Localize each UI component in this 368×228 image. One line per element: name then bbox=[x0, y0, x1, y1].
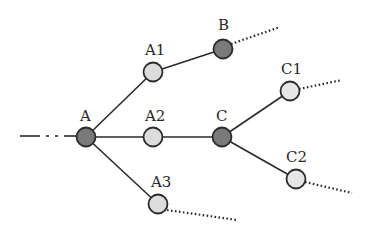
node-C bbox=[213, 128, 232, 147]
edge-A-A1 bbox=[86, 72, 153, 137]
label-C: C bbox=[216, 107, 227, 125]
node-A2 bbox=[144, 128, 163, 147]
edge-C1-continues bbox=[299, 80, 342, 89]
node-A3 bbox=[149, 195, 168, 214]
label-C1: C1 bbox=[281, 60, 302, 78]
node-B bbox=[214, 40, 233, 59]
label-B: B bbox=[218, 16, 229, 34]
edge-C2-continues bbox=[305, 182, 352, 193]
node-C2 bbox=[287, 170, 306, 189]
edge-C-C1 bbox=[222, 91, 290, 137]
label-A2: A2 bbox=[144, 107, 165, 125]
edge-A3-continues bbox=[167, 210, 237, 220]
node-A bbox=[77, 128, 96, 147]
edge-B-continues bbox=[231, 27, 280, 44]
edge-A-A3 bbox=[86, 137, 158, 204]
node-C1 bbox=[281, 82, 300, 101]
node-A1 bbox=[144, 63, 163, 82]
tree-diagram: A A1 A2 A3 B C C1 C2 bbox=[0, 0, 368, 228]
label-A3: A3 bbox=[150, 173, 171, 191]
label-A1: A1 bbox=[144, 41, 165, 59]
label-A: A bbox=[79, 107, 91, 125]
label-C2: C2 bbox=[286, 148, 307, 166]
edge-C-C2 bbox=[222, 137, 296, 179]
